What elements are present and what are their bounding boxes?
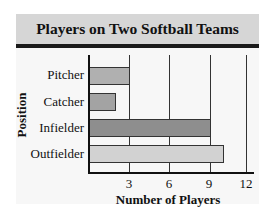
bar-catcher <box>89 93 116 111</box>
bar-infielder <box>89 119 211 137</box>
title-rule <box>16 44 259 48</box>
category-label: Infielder <box>39 120 84 136</box>
category-label: Outfielder <box>31 146 84 162</box>
chart-title: Players on Two Softball Teams <box>36 20 239 38</box>
x-tick-label: 3 <box>126 176 133 192</box>
x-tick-label: 12 <box>240 176 253 192</box>
x-axis <box>88 172 254 174</box>
bar-pitcher <box>89 67 130 85</box>
x-tick-label: 9 <box>206 176 213 192</box>
bar-outfielder <box>89 145 224 163</box>
x-tick-label: 6 <box>166 176 173 192</box>
y-axis <box>88 55 90 173</box>
category-label: Catcher <box>44 94 84 110</box>
x-axis-label: Number of Players <box>88 192 248 208</box>
category-label: Pitcher <box>47 67 84 83</box>
gridline-12 <box>246 55 247 172</box>
y-axis-label: Position <box>14 93 30 138</box>
title-band: Players on Two Softball Teams <box>16 14 259 44</box>
